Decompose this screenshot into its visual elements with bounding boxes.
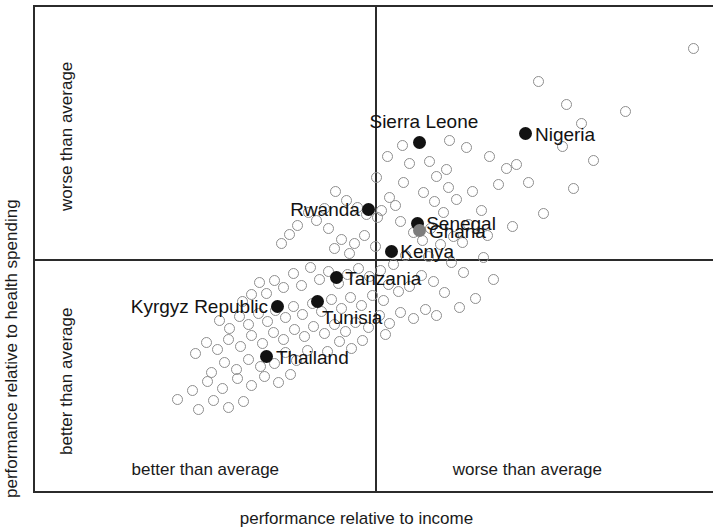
point-label-tanzania: Tanzania	[345, 268, 421, 287]
point-label-ghana: Ghana	[429, 221, 486, 240]
scatter-point-unlabelled	[246, 330, 257, 341]
scatter-point-unlabelled	[370, 241, 381, 252]
scatter-point-unlabelled	[478, 252, 489, 263]
scatter-point-unlabelled	[273, 377, 284, 388]
y-quadrant-label-bottom: better than average	[57, 308, 77, 455]
scatter-point-unlabelled	[326, 294, 337, 305]
scatter-point-unlabelled	[378, 295, 389, 306]
scatter-point-unlabelled	[217, 383, 228, 394]
scatter-point-unlabelled	[538, 208, 549, 219]
scatter-point-unlabelled	[428, 276, 439, 287]
scatter-point-unlabelled	[190, 348, 201, 359]
scatter-point-unlabelled	[484, 151, 495, 162]
scatter-point-unlabelled	[443, 182, 454, 193]
scatter-point-unlabelled	[384, 192, 395, 203]
scatter-point-unlabelled	[395, 307, 406, 318]
scatter-point-unlabelled	[257, 338, 268, 349]
plot-area: Sierra LeoneNigeriaRwandaSenegalGhanaKen…	[35, 7, 713, 491]
scatter-point-unlabelled	[329, 243, 340, 254]
scatter-point-unlabelled	[172, 394, 183, 405]
scatter-point-unlabelled	[278, 282, 289, 293]
scatter-point-unlabelled	[451, 194, 462, 205]
scatter-point-unlabelled	[268, 327, 279, 338]
scatter-point-unlabelled	[458, 267, 469, 278]
point-label-sierra-leone: Sierra Leone	[369, 112, 478, 131]
scatter-point-unlabelled	[243, 354, 254, 365]
scatter-point-unlabelled	[292, 220, 303, 231]
scatter-point-unlabelled	[408, 313, 419, 324]
point-label-nigeria: Nigeria	[535, 124, 595, 143]
scatter-point-unlabelled	[371, 172, 382, 183]
scatter-point-unlabelled	[232, 373, 243, 384]
scatter-point-unlabelled	[224, 323, 235, 334]
scatter-point-sierra-leone[interactable]	[413, 136, 426, 149]
scatter-point-unlabelled	[493, 179, 504, 190]
scatter-point-unlabelled	[384, 318, 395, 329]
scatter-point-unlabelled	[431, 171, 442, 182]
scatter-point-unlabelled	[296, 280, 307, 291]
scatter-point-unlabelled	[359, 230, 370, 241]
scatter-point-kenya[interactable]	[385, 245, 398, 258]
scatter-point-unlabelled	[201, 337, 212, 348]
scatter-point-unlabelled	[208, 395, 219, 406]
scatter-point-unlabelled	[439, 287, 450, 298]
scatter-point-unlabelled	[288, 301, 299, 312]
point-label-tunisia: Tunisia	[322, 308, 383, 327]
scatter-point-unlabelled	[202, 376, 213, 387]
scatter-point-unlabelled	[511, 159, 522, 170]
scatter-point-unlabelled	[262, 316, 273, 327]
x-quadrant-label-right: worse than average	[453, 460, 602, 480]
scatter-point-unlabelled	[219, 357, 230, 368]
scatter-point-unlabelled	[285, 369, 296, 380]
scatter-point-unlabelled	[431, 310, 442, 321]
scatter-point-kyrgyz-republic[interactable]	[271, 300, 284, 313]
scatter-point-unlabelled	[308, 321, 319, 332]
scatter-point-unlabelled	[404, 158, 415, 169]
scatter-point-unlabelled	[424, 156, 435, 167]
scatter-point-unlabelled	[223, 334, 234, 345]
scatter-point-unlabelled	[688, 43, 699, 54]
scatter-point-unlabelled	[561, 99, 572, 110]
scatter-point-unlabelled	[319, 328, 330, 339]
scatter-point-unlabelled	[444, 135, 455, 146]
scatter-point-unlabelled	[395, 216, 406, 227]
point-label-rwanda: Rwanda	[290, 200, 360, 219]
scatter-point-unlabelled	[288, 268, 299, 279]
scatter-point-unlabelled	[429, 196, 440, 207]
scatter-point-unlabelled	[418, 187, 429, 198]
point-label-thailand: Thailand	[276, 347, 349, 366]
scatter-point-unlabelled	[441, 164, 452, 175]
scatter-chart-figure: performance relative to health spending …	[0, 0, 713, 532]
y-axis-title: performance relative to health spending	[2, 199, 22, 498]
scatter-point-rwanda[interactable]	[362, 203, 375, 216]
scatter-point-unlabelled	[398, 177, 409, 188]
scatter-point-unlabelled	[297, 309, 308, 320]
horizontal-average-divider	[35, 259, 713, 261]
scatter-point-unlabelled	[397, 140, 408, 151]
scatter-point-unlabelled	[235, 341, 246, 352]
scatter-point-unlabelled	[568, 183, 579, 194]
scatter-point-unlabelled	[212, 344, 223, 355]
scatter-point-unlabelled	[349, 238, 360, 249]
scatter-point-unlabelled	[314, 274, 325, 285]
scatter-point-nigeria[interactable]	[519, 127, 532, 140]
scatter-point-unlabelled	[420, 304, 431, 315]
scatter-point-unlabelled	[380, 329, 391, 340]
scatter-point-unlabelled	[382, 151, 393, 162]
scatter-point-unlabelled	[323, 223, 334, 234]
point-label-kyrgyz-republic: Kyrgyz Republic	[131, 297, 268, 316]
scatter-point-unlabelled	[501, 163, 512, 174]
scatter-point-unlabelled	[269, 275, 280, 286]
scatter-point-unlabelled	[280, 312, 291, 323]
scatter-point-unlabelled	[588, 155, 599, 166]
scatter-point-unlabelled	[299, 331, 310, 342]
scatter-point-unlabelled	[289, 324, 300, 335]
scatter-point-unlabelled	[454, 302, 465, 313]
scatter-point-unlabelled	[620, 106, 631, 117]
point-label-kenya: Kenya	[400, 242, 454, 261]
scatter-point-unlabelled	[470, 293, 481, 304]
scatter-point-unlabelled	[238, 396, 249, 407]
scatter-point-tanzania[interactable]	[330, 271, 343, 284]
scatter-point-unlabelled	[243, 319, 254, 330]
scatter-point-unlabelled	[488, 274, 499, 285]
